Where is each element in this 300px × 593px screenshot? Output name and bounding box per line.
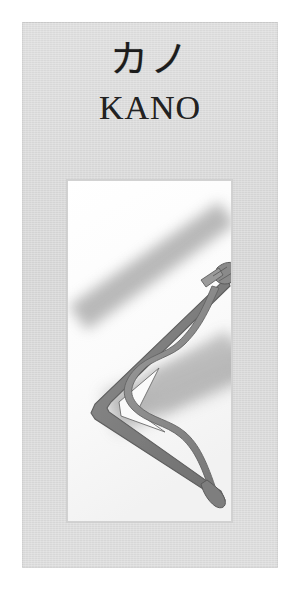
bow-logo-artwork <box>67 180 232 522</box>
page-background: カノ KANO Stylized Japanese bow (yumi) wit… <box>0 0 300 593</box>
wordmark: カノ KANO <box>22 36 278 127</box>
specimen-panel: カノ KANO Stylized Japanese bow (yumi) wit… <box>22 22 278 568</box>
wordmark-romaji: KANO <box>22 89 278 127</box>
artwork-panel: Stylized Japanese bow (yumi) with drawn … <box>67 180 232 522</box>
wordmark-kana: カノ <box>22 36 278 82</box>
